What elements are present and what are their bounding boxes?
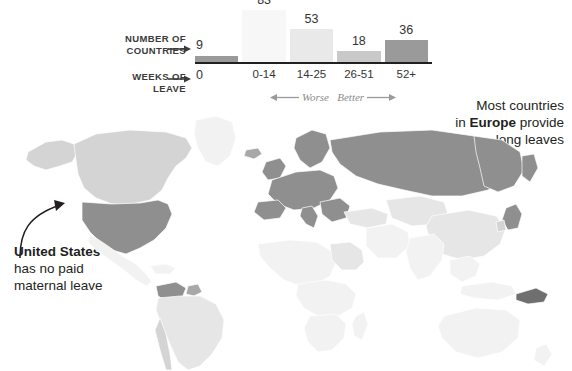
map-region-iceland: [244, 148, 262, 159]
worse-better-scale: Worse Better: [258, 88, 408, 104]
countries-arrow-icon: [168, 44, 192, 54]
legend-zero-weeks: 0: [196, 68, 203, 82]
legend-baseline: [195, 62, 432, 64]
map-region-middle-east: [366, 224, 410, 258]
map-region-southern-africa: [304, 314, 346, 352]
map-region-new-zealand: [534, 344, 552, 366]
legend-bar-value: 36: [385, 23, 428, 37]
map-region-turkey: [344, 208, 388, 228]
map-region-korea: [496, 220, 506, 232]
map-region-kamchatka: [522, 154, 538, 182]
legend-tick-label: 14-25: [290, 68, 333, 80]
map-svg: [0, 104, 572, 371]
map-region-southeast-asia: [450, 256, 480, 282]
legend-bar-value: 83: [242, 0, 285, 7]
map-region-iberia: [254, 200, 286, 220]
map-region-india: [406, 234, 444, 280]
legend-bar: [337, 51, 380, 62]
legend-bar: [290, 29, 333, 62]
map-region-australia: [438, 308, 520, 358]
map-region-papua-new-guinea: [516, 288, 548, 304]
map-region-italy: [300, 206, 318, 228]
map-region-north-east-africa: [330, 242, 364, 270]
legend-bar: [385, 40, 428, 62]
better-label: Better: [337, 91, 364, 103]
legend-panel: NUMBER OF COUNTRIES 9 WEEKS OF LEAVE 0 8…: [0, 0, 572, 110]
legend-tick-label: 52+: [385, 68, 428, 80]
legend-tick-label: 26-51: [337, 68, 380, 80]
map-region-guyana: [186, 284, 202, 296]
weeks-arrow-icon: [168, 74, 192, 84]
map-region-madagascar: [352, 312, 368, 340]
map-region-north-west-africa: [258, 240, 336, 286]
map-region-scandinavia: [294, 130, 330, 168]
legend-bar: [242, 10, 285, 62]
map-region-balkans: [320, 198, 350, 222]
map-region-greenland: [194, 116, 236, 166]
legend-bar-value: 18: [337, 34, 380, 48]
map-region-central-africa: [296, 280, 356, 316]
infographic-root: NUMBER OF COUNTRIES 9 WEEKS OF LEAVE 0 8…: [0, 0, 572, 371]
legend-tick-label: 0-14: [242, 68, 285, 80]
legend-countries-label-line1: NUMBER OF: [125, 33, 186, 44]
legend-bar-value: 53: [290, 12, 333, 26]
worse-label: Worse: [302, 91, 329, 103]
map-region-canada: [74, 130, 192, 204]
map-region-alaska: [26, 140, 78, 170]
map-region-indonesia: [460, 282, 516, 300]
world-choropleth-map: [0, 104, 572, 371]
map-region-caribbean: [150, 264, 176, 274]
legend-weeks-label-line2: LEAVE: [153, 83, 186, 94]
